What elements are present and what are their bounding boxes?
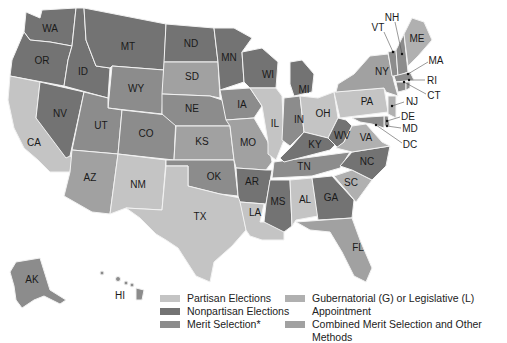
svg-text:VT: VT — [372, 22, 385, 33]
legend-item-partisan: Partisan Elections — [160, 292, 271, 305]
legend-item-merit: Merit Selection* — [160, 318, 261, 331]
svg-text:OK: OK — [207, 171, 222, 182]
svg-text:NC: NC — [360, 156, 374, 167]
legend-item-nonpartisan: Nonpartisan Elections — [160, 305, 289, 318]
svg-text:ID: ID — [78, 66, 88, 77]
legend-swatch-merit — [160, 321, 180, 328]
legend-label: Partisan Elections — [187, 292, 271, 305]
svg-text:FL: FL — [352, 242, 364, 253]
svg-text:AZ: AZ — [84, 172, 97, 183]
svg-text:NM: NM — [130, 179, 146, 190]
svg-text:GA: GA — [324, 192, 339, 203]
svg-text:TN: TN — [297, 161, 310, 172]
legend-swatch-nonpartisan — [160, 308, 180, 315]
svg-text:MO: MO — [240, 137, 256, 148]
svg-text:DE: DE — [401, 111, 415, 122]
svg-text:PA: PA — [361, 96, 374, 107]
svg-text:VA: VA — [360, 132, 373, 143]
svg-text:NJ: NJ — [406, 96, 418, 107]
svg-text:NH: NH — [385, 12, 399, 23]
svg-text:RI: RI — [427, 75, 437, 86]
svg-text:NV: NV — [53, 108, 67, 119]
svg-text:AK: AK — [25, 274, 39, 285]
svg-text:CO: CO — [139, 128, 154, 139]
svg-text:KY: KY — [308, 139, 322, 150]
svg-text:IL: IL — [271, 118, 280, 129]
svg-text:KS: KS — [195, 136, 209, 147]
svg-text:ND: ND — [184, 38, 198, 49]
svg-text:NY: NY — [375, 66, 389, 77]
svg-text:MS: MS — [271, 196, 286, 207]
svg-text:MN: MN — [221, 52, 237, 63]
svg-text:IA: IA — [237, 99, 247, 110]
svg-text:WY: WY — [128, 83, 144, 94]
svg-text:SC: SC — [344, 177, 358, 188]
svg-text:MD: MD — [402, 123, 418, 134]
svg-text:SD: SD — [185, 71, 199, 82]
legend-item-combined: Combined Merit Selection and Other Metho… — [285, 318, 507, 343]
svg-text:AR: AR — [245, 176, 259, 187]
svg-text:HI: HI — [115, 290, 125, 301]
svg-text:DC: DC — [403, 139, 417, 150]
legend-swatch-combined — [285, 321, 305, 328]
svg-text:LA: LA — [249, 207, 262, 218]
svg-text:IN: IN — [294, 114, 304, 125]
legend-label: Nonpartisan Elections — [187, 305, 289, 318]
legend-label: Combined Merit Selection and Other Metho… — [312, 318, 507, 343]
legend-label: Merit Selection* — [187, 318, 261, 331]
svg-text:WI: WI — [262, 69, 274, 80]
svg-text:UT: UT — [94, 120, 107, 131]
svg-text:OH: OH — [316, 108, 331, 119]
state-MT[interactable] — [84, 8, 166, 70]
map-legend: Partisan Elections Nonpartisan Elections… — [160, 292, 507, 335]
svg-text:MT: MT — [121, 41, 135, 52]
svg-text:MI: MI — [298, 84, 309, 95]
legend-swatch-partisan — [160, 295, 180, 302]
svg-text:ME: ME — [410, 33, 425, 44]
legend-item-appointment: Gubernatorial (G) or Legislative (L) App… — [285, 292, 495, 317]
svg-text:NE: NE — [185, 103, 199, 114]
svg-text:AL: AL — [299, 194, 312, 205]
svg-text:WA: WA — [42, 23, 58, 34]
svg-text:MA: MA — [429, 55, 444, 66]
svg-text:CA: CA — [27, 137, 41, 148]
state-CT[interactable] — [396, 82, 406, 92]
svg-text:CT: CT — [427, 90, 440, 101]
svg-text:WV: WV — [334, 130, 350, 141]
svg-text:OR: OR — [35, 55, 50, 66]
svg-text:TX: TX — [194, 211, 207, 222]
legend-swatch-appointment — [285, 295, 305, 302]
legend-label: Gubernatorial (G) or Legislative (L) App… — [312, 292, 495, 317]
